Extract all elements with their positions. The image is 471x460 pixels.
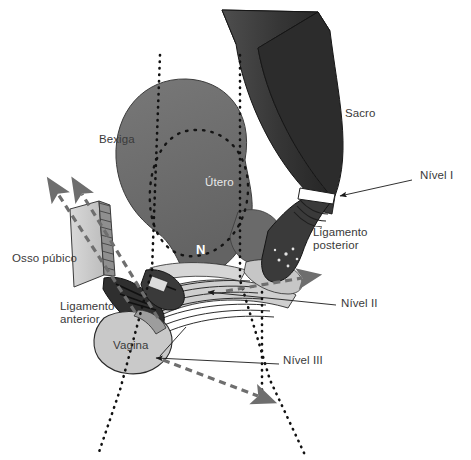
arrow-inferior bbox=[163, 360, 258, 396]
anatomical-diagram: Sacro Bexiga Útero Nível I Ligamento pos… bbox=[0, 0, 471, 460]
label-nivel-i: Nível I bbox=[420, 169, 453, 182]
pubic-bone-face bbox=[70, 201, 104, 287]
nivel-i-leader bbox=[340, 180, 412, 196]
label-ligamento-anterior: Ligamento anterior bbox=[60, 300, 150, 326]
label-sacro: Sacro bbox=[345, 107, 376, 120]
label-n-marker: N bbox=[196, 243, 206, 256]
label-bexiga: Bexiga bbox=[99, 133, 135, 146]
label-vagina: Vagina bbox=[113, 339, 149, 352]
nivel-iii-leader bbox=[156, 358, 279, 364]
label-nivel-ii: Nível II bbox=[341, 297, 378, 310]
label-nivel-iii: Nível III bbox=[283, 354, 323, 367]
label-osso-publico: Osso púbico bbox=[12, 252, 77, 265]
label-utero: Útero bbox=[205, 176, 234, 189]
label-ligamento-posterior: Ligamento posterior bbox=[313, 226, 403, 252]
